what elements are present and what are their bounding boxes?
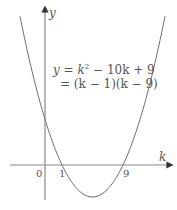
root-9-label: 9 [123, 168, 129, 179]
y-axis-label: y [48, 6, 56, 20]
equation-line-2: = (k − 1)(k − 9) [60, 77, 158, 91]
k-axis-label: k [159, 150, 166, 164]
origin-label: 0 [36, 168, 42, 179]
quadratic-graph: y k 0 1 9 y = k2 − 10k + 9 = (k − 1)(k −… [0, 0, 177, 210]
equation-line-1-suffix: − 10k + 9 [89, 63, 155, 77]
equation-line-1: y = k2 − 10k + 9 [52, 63, 155, 77]
equation-line-1-prefix: y = k [52, 63, 85, 77]
root-1-label: 1 [59, 168, 65, 179]
